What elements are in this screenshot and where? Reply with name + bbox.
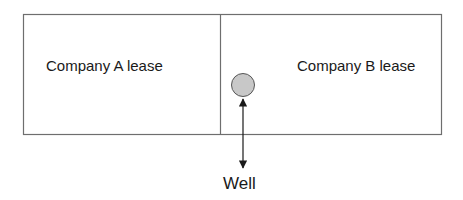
well-label: Well: [223, 174, 256, 194]
company-a-lease-label: Company A lease: [46, 57, 163, 74]
lease-diagram: [0, 0, 463, 200]
well-icon: [232, 74, 255, 97]
company-b-lease-label: Company B lease: [297, 57, 415, 74]
lease-boundary: [24, 15, 442, 135]
